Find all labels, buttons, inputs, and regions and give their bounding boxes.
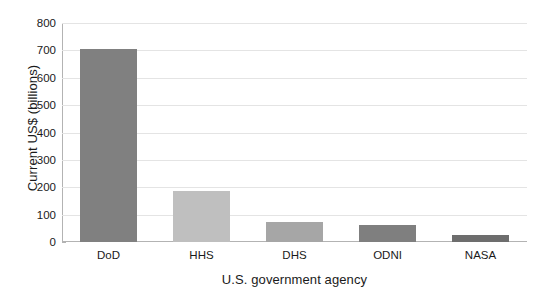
- bar-nasa[interactable]: [452, 235, 510, 242]
- bar-slot: [155, 23, 248, 242]
- x-axis-tick-labels: DoDHHSDHSODNINASA: [62, 246, 527, 264]
- y-axis-tick-label: 700: [10, 44, 56, 56]
- x-axis-tick-label: DoD: [62, 246, 155, 264]
- bar-slot: [62, 23, 155, 242]
- y-axis-tick-mark: [62, 242, 66, 243]
- bar-slot: [434, 23, 527, 242]
- y-axis-tick-label: 800: [10, 17, 56, 29]
- x-axis-title: U.S. government agency: [62, 272, 527, 287]
- y-axis-tick-label: 300: [10, 154, 56, 166]
- plot-area: [62, 23, 527, 242]
- x-axis-tick-label: HHS: [155, 246, 248, 264]
- bar-hhs[interactable]: [173, 191, 231, 242]
- bars-group: [62, 23, 527, 242]
- y-axis-tick-label: 500: [10, 99, 56, 111]
- y-axis-tick-labels: 0100200300400500600700800: [8, 23, 56, 242]
- bar-chart: Current US$ (billions) 01002003004005006…: [0, 0, 537, 305]
- y-axis-tick-label: 0: [10, 236, 56, 248]
- x-axis-tick-label: NASA: [434, 246, 527, 264]
- x-axis-tick-label: ODNI: [341, 246, 434, 264]
- bar-dod[interactable]: [80, 49, 138, 242]
- y-axis-tick-label: 200: [10, 181, 56, 193]
- bar-odni[interactable]: [359, 225, 417, 242]
- y-axis-tick-label: 600: [10, 72, 56, 84]
- bar-slot: [341, 23, 434, 242]
- x-axis-tick-label: DHS: [248, 246, 341, 264]
- y-axis-tick-label: 100: [10, 209, 56, 221]
- y-axis-tick-label: 400: [10, 127, 56, 139]
- bar-slot: [248, 23, 341, 242]
- bar-dhs[interactable]: [266, 222, 324, 242]
